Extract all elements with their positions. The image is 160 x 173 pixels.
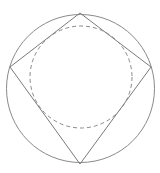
outer-circle [7,15,155,163]
geometry-diagram [0,0,160,173]
